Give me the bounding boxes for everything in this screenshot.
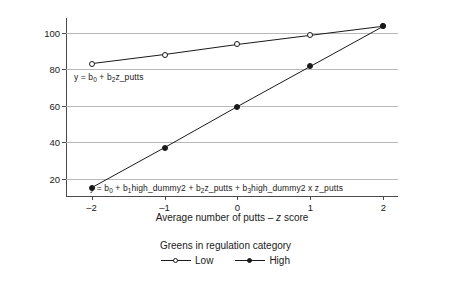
- equation-subscript: 3: [247, 187, 251, 194]
- x-tick-mark: [383, 196, 384, 200]
- equation-subscript: 2: [112, 76, 116, 83]
- data-point-high: [162, 145, 168, 151]
- equation-text: y = b: [90, 183, 109, 193]
- x-axis-label-text: Average number of putts –: [156, 212, 276, 223]
- legend-item-low[interactable]: Low: [161, 255, 213, 266]
- legend-label: Low: [195, 255, 213, 266]
- y-tick-label: 100: [44, 27, 60, 38]
- equation-subscript: 1: [128, 187, 132, 194]
- filled-circle-icon: [247, 258, 252, 263]
- equation-annotation-low: y = b0 + b2z_putts: [74, 72, 144, 82]
- y-tick-label: 20: [49, 173, 60, 184]
- equation-text: + b: [113, 183, 128, 193]
- equation-text: high_dummy2 + b: [131, 183, 200, 193]
- legend: Greens in regulation category LowHigh: [0, 240, 451, 266]
- equation-subscript: 0: [109, 187, 113, 194]
- open-circle-icon: [173, 258, 178, 263]
- x-tick-mark: [92, 196, 93, 200]
- equation-subscript: 0: [93, 76, 97, 83]
- y-tick-label: 60: [49, 100, 60, 111]
- y-tick-label: 80: [49, 64, 60, 75]
- equation-text: y = b: [74, 72, 93, 82]
- plot-area: 20406080100 –2–1012: [66, 18, 398, 196]
- data-point-low: [162, 52, 168, 58]
- data-point-low: [89, 61, 95, 67]
- x-axis-label-tail: score: [281, 212, 308, 223]
- legend-marker-icon: [235, 256, 265, 265]
- equation-text: high_dummy2 x z_putts: [251, 183, 343, 193]
- x-tick-mark: [165, 196, 166, 200]
- x-tick-mark: [310, 196, 311, 200]
- x-axis-line: [66, 196, 398, 197]
- equation-text: z_putts + b: [204, 183, 247, 193]
- legend-label: High: [269, 255, 290, 266]
- chart-figure: Predicted money rank 20406080100 –2–1012…: [0, 0, 451, 286]
- legend-item-high[interactable]: High: [235, 255, 290, 266]
- legend-title: Greens in regulation category: [0, 240, 451, 251]
- x-axis-label: Average number of putts – z score: [66, 212, 398, 223]
- legend-items: LowHigh: [0, 255, 451, 266]
- x-tick-mark: [237, 196, 238, 200]
- legend-marker-icon: [161, 256, 191, 265]
- equation-text: z_putts: [115, 72, 143, 82]
- equation-annotation-high: y = b0 + b1high_dummy2 + b2z_putts + b3h…: [90, 183, 343, 193]
- equation-subscript: 2: [201, 187, 205, 194]
- equation-text: + b: [97, 72, 112, 82]
- y-tick-label: 40: [49, 137, 60, 148]
- series-lines: [66, 18, 398, 196]
